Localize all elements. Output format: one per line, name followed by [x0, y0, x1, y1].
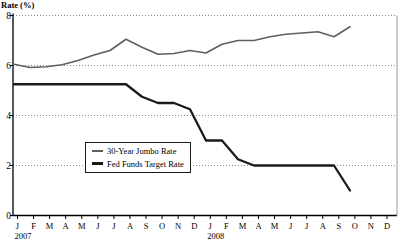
- fed-funds-line-sample: [92, 162, 103, 165]
- x-tick-label: M: [271, 221, 279, 231]
- year-label: 2007: [15, 231, 32, 241]
- x-tick-label: N: [368, 221, 374, 231]
- y-tick-label: 8: [6, 11, 11, 21]
- x-tick-label: S: [144, 221, 149, 231]
- legend-label: Fed Funds Target Rate: [107, 159, 184, 170]
- x-tick-label: D: [191, 221, 197, 231]
- x-tick-label: J: [305, 221, 309, 231]
- x-tick-label: A: [127, 221, 134, 231]
- x-tick-label: J: [16, 221, 20, 231]
- legend: 30-Year Jumbo Rate Fed Funds Target Rate: [85, 142, 191, 173]
- x-axis-labels: JFMAMJJASONDJFMAMJJASOND20072008: [15, 216, 391, 242]
- legend-item: 30-Year Jumbo Rate: [92, 146, 184, 157]
- x-tick-label: M: [46, 221, 54, 231]
- x-tick-label: J: [112, 221, 116, 231]
- chart-title: Rate (%): [1, 0, 34, 10]
- x-tick-label: D: [384, 221, 390, 231]
- x-tick-label: A: [320, 221, 327, 231]
- year-label: 2008: [207, 231, 224, 241]
- y-tick-label: 6: [6, 61, 11, 71]
- series-30-year-jumbo-rate: [14, 27, 350, 68]
- chart-root: 02468JFMAMJJASONDJFMAMJJASOND20072008 Ra…: [0, 0, 401, 242]
- x-tick-label: J: [289, 221, 293, 231]
- x-tick-label: O: [159, 221, 165, 231]
- legend-item: Fed Funds Target Rate: [92, 159, 184, 170]
- x-tick-label: A: [63, 221, 70, 231]
- x-tick-label: M: [239, 221, 247, 231]
- x-tick-label: A: [255, 221, 262, 231]
- axes: [12, 14, 397, 216]
- x-tick-label: J: [209, 221, 213, 231]
- x-tick-label: S: [336, 221, 341, 231]
- x-tick-label: F: [224, 221, 229, 231]
- x-tick-label: O: [352, 221, 358, 231]
- chart-canvas: 02468JFMAMJJASONDJFMAMJJASOND20072008: [0, 0, 401, 242]
- series-fed-funds-target-rate: [14, 84, 350, 190]
- y-tick-label: 0: [6, 211, 11, 221]
- x-tick-label: F: [31, 221, 36, 231]
- x-tick-label: N: [175, 221, 181, 231]
- y-tick-label: 2: [6, 161, 11, 171]
- gridlines: [13, 16, 397, 166]
- y-tick-label: 4: [6, 111, 11, 121]
- y-axis-labels: 02468: [6, 11, 13, 221]
- legend-label: 30-Year Jumbo Rate: [107, 146, 177, 157]
- x-tick-label: M: [78, 221, 86, 231]
- jumbo-rate-line-sample: [92, 150, 103, 152]
- x-tick-label: J: [96, 221, 100, 231]
